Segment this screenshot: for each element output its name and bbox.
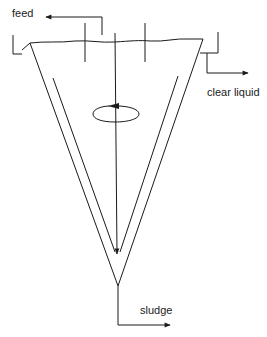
right-weir (200, 32, 218, 53)
clear-liquid-label: clear liquid (207, 86, 260, 98)
liquid-surface (30, 39, 203, 43)
sludge-label: sludge (140, 304, 172, 316)
thickener-diagram: feed clear liquid sludge (0, 0, 267, 337)
left-weir (13, 35, 30, 54)
feed-label: feed (12, 7, 33, 19)
feed-inlet-arrow (46, 17, 102, 35)
central-shaft (115, 33, 117, 254)
clear-liquid-outlet-arrow (207, 53, 248, 73)
